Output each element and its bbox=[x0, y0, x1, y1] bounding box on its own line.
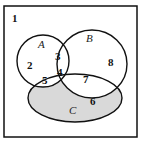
set-c-label: C bbox=[69, 104, 77, 116]
region-7: 7 bbox=[83, 73, 89, 85]
region-4: 4 bbox=[57, 66, 63, 78]
region-2: 2 bbox=[27, 59, 33, 71]
region-8: 8 bbox=[108, 56, 114, 68]
set-a-label: A bbox=[37, 38, 45, 50]
region-5: 5 bbox=[42, 74, 48, 86]
universe-label: 1 bbox=[12, 12, 18, 24]
venn-diagram: 1 A B C 2 3 4 5 6 7 8 bbox=[0, 0, 142, 143]
region-6: 6 bbox=[90, 95, 96, 107]
set-b-label: B bbox=[86, 32, 93, 44]
region-3: 3 bbox=[55, 50, 61, 62]
